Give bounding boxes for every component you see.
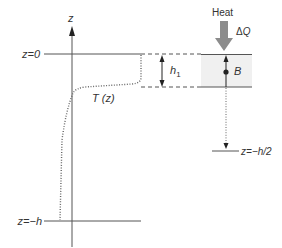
midline-arrow-down-icon: [224, 143, 229, 149]
point-b-dot: [223, 69, 228, 74]
diagram-svg: z z=0 h1 T (z) z=−h Heat ΔQ B z=−h/2: [0, 0, 282, 248]
temperature-curve-label: T (z): [92, 92, 115, 104]
bottom-label: z=−h: [17, 215, 42, 227]
heat-label: Heat: [212, 7, 233, 18]
h1-arrow-up-icon: [160, 55, 165, 62]
z-axis-label: z: [67, 12, 74, 24]
h1-arrow-down-icon: [160, 80, 165, 87]
point-b-label: B: [234, 65, 241, 77]
z-axis-arrowhead-icon: [69, 26, 75, 36]
h1-label: h1: [170, 64, 181, 79]
heat-arrow-icon: [215, 21, 233, 51]
heat-delta-label: ΔQ: [236, 26, 251, 37]
midline-label: z=−h/2: [240, 146, 272, 157]
ocean-mixed-layer-diagram: z z=0 h1 T (z) z=−h Heat ΔQ B z=−h/2: [0, 0, 282, 248]
surface-label: z=0: [21, 48, 41, 60]
